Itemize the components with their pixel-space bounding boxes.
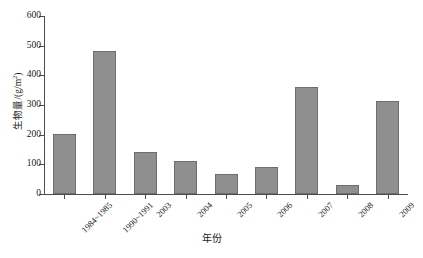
bar bbox=[376, 101, 399, 194]
plot-area: 0100200300400500600 bbox=[44, 16, 408, 194]
bar bbox=[295, 87, 318, 194]
y-axis-line bbox=[44, 16, 45, 195]
y-axis-title-superscript: 2 bbox=[11, 76, 18, 79]
y-tick-label: 100 bbox=[27, 157, 41, 170]
x-tick-label: 1984~1985 bbox=[80, 200, 115, 235]
x-tick-mark bbox=[186, 195, 187, 199]
y-tick-label: 400 bbox=[27, 68, 41, 81]
y-tick-label: 300 bbox=[27, 98, 41, 111]
bar bbox=[93, 51, 116, 194]
bar bbox=[215, 174, 238, 194]
x-tick-label: 1990~1991 bbox=[120, 200, 155, 235]
y-axis-title-base: 生物量/(g/m bbox=[13, 79, 23, 130]
x-tick-label: 2005 bbox=[235, 200, 255, 220]
bar bbox=[134, 152, 157, 194]
y-tick-label: 600 bbox=[27, 9, 41, 22]
y-tick-label: 0 bbox=[36, 187, 41, 200]
bar-chart-figure: 生物量/(g/m2) 0100200300400500600 1984~1985… bbox=[0, 0, 423, 258]
x-tick-mark bbox=[226, 195, 227, 199]
y-axis-title-tail: ) bbox=[13, 73, 23, 76]
y-tick-label: 200 bbox=[27, 128, 41, 141]
bar bbox=[53, 134, 76, 194]
x-tick-mark bbox=[266, 195, 267, 199]
x-tick-label: 2004 bbox=[195, 200, 215, 220]
x-tick-label: 2006 bbox=[275, 200, 295, 220]
x-tick-label: 2007 bbox=[316, 200, 336, 220]
y-axis-title: 生物量/(g/m2) bbox=[8, 6, 22, 196]
x-tick-label: 2003 bbox=[154, 200, 174, 220]
x-tick-mark bbox=[105, 195, 106, 199]
x-tick-mark bbox=[145, 195, 146, 199]
bar bbox=[255, 167, 278, 194]
x-tick-mark bbox=[388, 195, 389, 199]
x-tick-label: 2008 bbox=[356, 200, 376, 220]
x-tick-label: 2009 bbox=[397, 200, 417, 220]
y-tick-label: 500 bbox=[27, 39, 41, 52]
x-tick-mark bbox=[307, 195, 308, 199]
x-tick-mark bbox=[64, 195, 65, 199]
bar bbox=[174, 161, 197, 194]
x-axis-title: 年份 bbox=[0, 232, 423, 246]
bar bbox=[336, 185, 359, 194]
x-tick-mark bbox=[347, 195, 348, 199]
